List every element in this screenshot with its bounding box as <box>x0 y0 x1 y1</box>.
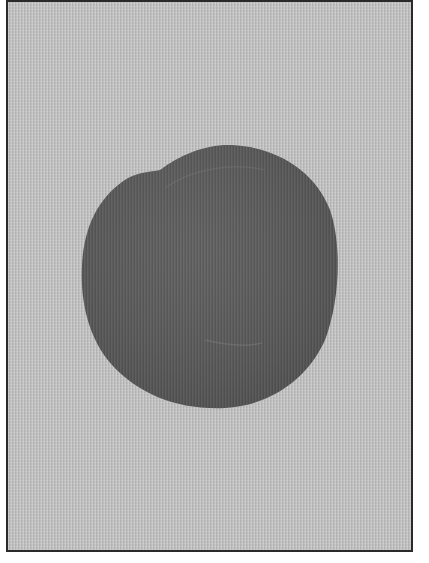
disc-icon <box>0 0 429 563</box>
disc-layer <box>0 0 429 563</box>
